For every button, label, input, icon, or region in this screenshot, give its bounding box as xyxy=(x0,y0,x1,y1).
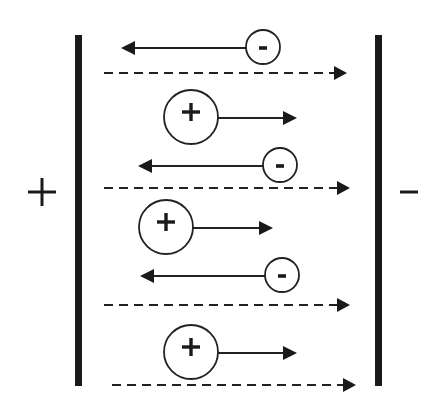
arrowhead-icon xyxy=(334,66,347,80)
arrowhead-icon xyxy=(259,221,273,235)
plates xyxy=(75,35,382,386)
arrowhead-icon xyxy=(337,181,350,195)
field-line-arrow xyxy=(104,66,347,80)
negative-plate xyxy=(375,35,382,386)
arrowhead-icon xyxy=(283,346,297,360)
positive-plate xyxy=(75,35,82,386)
plate-signs xyxy=(28,178,418,206)
negative-ion xyxy=(138,148,297,182)
plus-sign-icon xyxy=(28,178,56,206)
arrowhead-icon xyxy=(140,269,154,283)
arrowhead-icon xyxy=(343,378,356,392)
field-line-arrow xyxy=(112,378,356,392)
ions xyxy=(121,30,299,379)
arrowhead-icon xyxy=(283,111,297,125)
arrowhead-icon xyxy=(337,298,350,312)
field-line-arrow xyxy=(104,298,350,312)
arrowhead-icon xyxy=(121,41,135,55)
positive-ion xyxy=(139,200,273,254)
positive-ion xyxy=(164,325,297,379)
field-line-arrow xyxy=(104,181,350,195)
positive-ion xyxy=(164,90,297,144)
arrowhead-icon xyxy=(138,159,152,173)
negative-ion xyxy=(140,258,299,292)
ion-migration-diagram xyxy=(0,0,433,416)
negative-ion xyxy=(121,30,280,64)
